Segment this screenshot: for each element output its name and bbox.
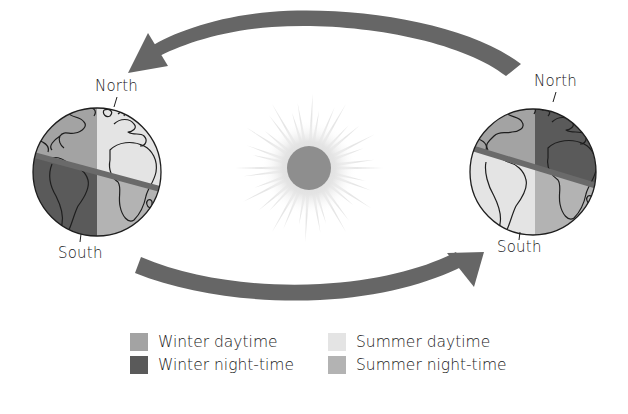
legend-swatch-summer-daytime [328,333,346,351]
globe-left-north-tick [114,97,117,107]
arrow-top-shaft [150,11,521,76]
legend-item-winter-night-time: Winter night-time [130,355,294,375]
legend-label: Winter night-time [158,356,294,374]
legend-label: Summer night-time [356,356,507,374]
legend-item-winter-daytime: Winter daytime [130,332,278,352]
globe-left-north-label: North [95,77,138,95]
globe-right [468,92,600,240]
globe-right-north-tick [553,92,556,102]
orbit-arrow-top [128,11,521,76]
legend-item-summer-daytime: Summer daytime [328,332,490,352]
globe-right-south-label: South [497,238,542,256]
globe-left [30,97,164,242]
globe-left-south-tick [80,234,81,242]
globe-right-north-label: North [534,72,577,90]
legend-swatch-winter-daytime [130,333,148,351]
orbit-arrow-bottom [135,252,484,301]
legend-swatch-summer-night-time [328,356,346,374]
diagram-canvas [0,0,628,414]
legend-label: Winter daytime [158,333,278,351]
sun [235,94,383,242]
sun-core [287,146,331,190]
legend-swatch-winter-night-time [130,356,148,374]
arrow-bottom-shaft [135,252,463,301]
globe-left-south-label: South [58,244,103,262]
legend-item-summer-night-time: Summer night-time [328,355,507,375]
legend-label: Summer daytime [356,333,490,351]
